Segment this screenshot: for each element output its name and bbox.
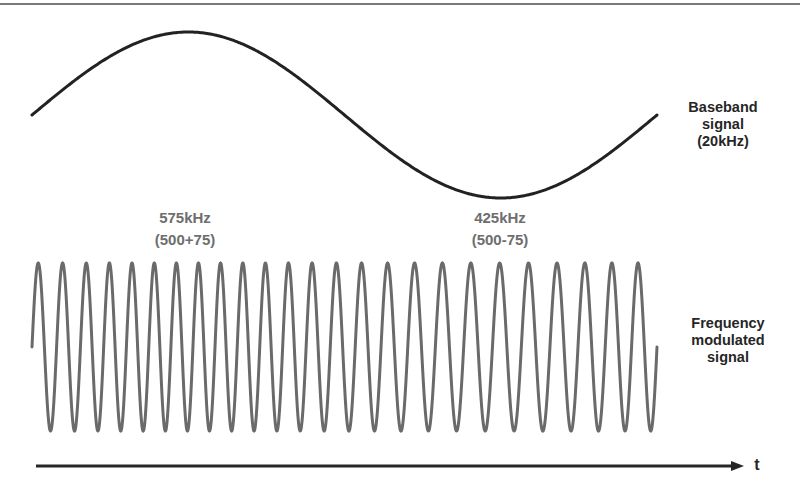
annotation-formula: (500+75) — [135, 229, 235, 251]
arrow-head-icon — [731, 461, 744, 471]
baseband-label-line: (20kHz) — [673, 133, 773, 150]
annotation-formula: (500-75) — [450, 229, 550, 251]
baseband-label-line: signal — [673, 116, 773, 133]
baseband-label-line: Baseband — [673, 99, 773, 116]
fm-diagram — [0, 0, 800, 495]
fm-label: Frequency modulated signal — [673, 315, 783, 366]
annotation-high-frequency: 575kHz (500+75) — [135, 207, 235, 251]
fm-wave — [32, 263, 657, 431]
fm-label-line: Frequency — [673, 315, 783, 332]
baseband-label: Baseband signal (20kHz) — [673, 99, 773, 150]
annotation-low-frequency: 425kHz (500-75) — [450, 207, 550, 251]
annotation-frequency: 575kHz — [135, 207, 235, 229]
baseband-wave — [32, 32, 657, 198]
time-axis-label: t — [750, 456, 764, 473]
fm-label-line: signal — [673, 349, 783, 366]
annotation-frequency: 425kHz — [450, 207, 550, 229]
fm-label-line: modulated — [673, 332, 783, 349]
